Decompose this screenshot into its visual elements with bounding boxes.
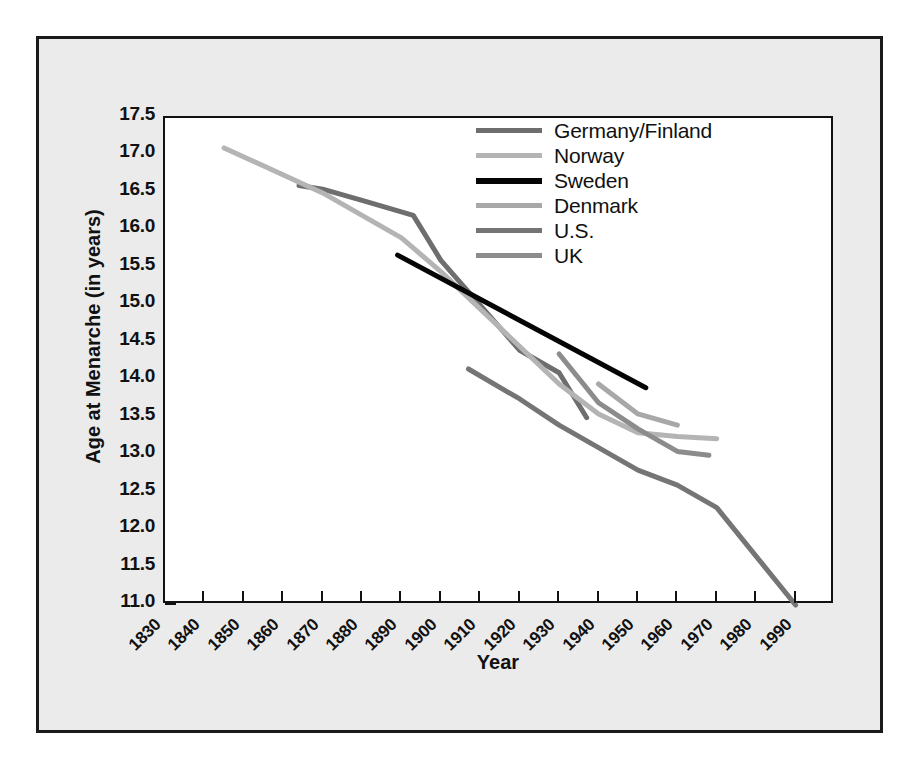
x-axis-tick-mark [321,591,323,603]
legend-item: UK [476,243,776,268]
legend-item: U.S. [476,218,776,243]
x-axis-tick-label: 1980 [716,615,756,655]
x-axis-tick-mark [597,591,599,603]
legend-label: Sweden [554,169,629,193]
y-axis-tick-label: 11.5 [120,553,155,575]
y-axis-tick-label: 13.0 [119,440,155,462]
x-axis-tick-label: 1990 [756,615,796,655]
legend-swatch [476,253,542,258]
y-axis-title: Age at Menarche (in years) [82,147,105,527]
x-axis-tick-mark [557,591,559,603]
x-axis-tick-mark [754,591,756,603]
y-axis-tick-label: 17.0 [119,140,155,162]
y-axis-tick-label: 16.0 [119,215,155,237]
y-axis-tick-label: 12.5 [119,478,155,500]
x-axis-tick-label: 1900 [401,615,441,655]
x-axis-tick-mark [439,591,441,603]
legend-swatch [476,178,542,184]
legend-label: Norway [554,144,624,168]
x-axis-tick-label: 1970 [677,615,717,655]
y-axis-tick-label: 17.5 [119,103,155,125]
legend: Germany/FinlandNorwaySwedenDenmarkU.S.UK [476,118,776,268]
x-axis-tick-label: 1870 [283,615,323,655]
legend-swatch [476,128,542,133]
x-axis-tick-mark [399,591,401,603]
x-axis-tick-label: 1960 [637,615,677,655]
legend-item: Germany/Finland [476,118,776,143]
y-axis-tick-label: 14.0 [119,365,155,387]
x-axis-tick-mark [360,591,362,603]
y-axis-tick-label: 15.0 [119,290,155,312]
y-axis-tick-label: 16.5 [119,178,155,200]
x-axis-tick-marks [163,591,833,605]
legend-item: Sweden [476,168,776,193]
x-axis-tick-label: 1910 [440,615,480,655]
x-axis-tick-label: 1950 [598,615,638,655]
x-axis-tick-mark [163,591,165,603]
x-axis-tick-label: 1920 [480,615,520,655]
x-axis-tick-mark [636,591,638,603]
legend-swatch [476,228,542,233]
y-axis-tick-label: 13.5 [119,403,155,425]
series-line [398,255,646,388]
y-axis-tick-label: 12.0 [119,515,155,537]
x-axis-tick-mark [675,591,677,603]
x-axis-tick-mark [715,591,717,603]
legend-item: Norway [476,143,776,168]
legend-label: Denmark [554,194,638,218]
legend-swatch [476,153,542,158]
x-axis-tick-label: 1880 [322,615,362,655]
x-axis-tick-mark [202,591,204,603]
y-axis-tick-label: 11.0 [120,590,155,612]
x-axis-tick-mark [794,591,796,603]
legend-label: Germany/Finland [554,119,712,143]
legend-swatch [476,203,542,208]
x-axis-tick-label: 1930 [519,615,559,655]
figure-panel: 11.011.512.012.513.013.514.014.515.015.5… [36,36,883,733]
x-axis-tick-label: 1940 [559,615,599,655]
y-axis-tick-label: 15.5 [119,253,155,275]
x-axis-tick-mark [478,591,480,603]
x-axis-tick-label: 1850 [204,615,244,655]
legend-label: U.S. [554,219,594,243]
y-axis-tick-label: 14.5 [119,328,155,350]
x-axis-tick-mark [242,591,244,603]
x-axis-tick-mark [518,591,520,603]
x-axis-tick-label: 1840 [164,615,204,655]
x-axis-title: Year [163,651,833,674]
legend-item: Denmark [476,193,776,218]
legend-label: UK [554,244,583,268]
series-line [468,369,795,605]
x-axis-tick-label: 1860 [243,615,283,655]
x-axis-tick-mark [281,591,283,603]
x-axis-tick-label: 1890 [361,615,401,655]
